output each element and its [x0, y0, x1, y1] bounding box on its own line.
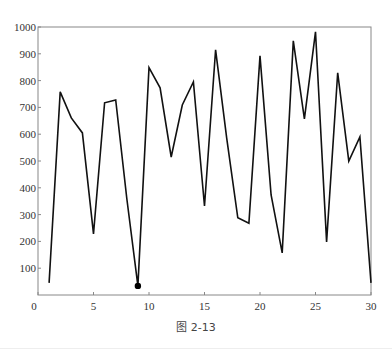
figure-caption: 图 2-13: [0, 318, 392, 334]
y-tick-label: 400: [20, 182, 37, 194]
line-chart: 1002003004005006007008009001000 05101520…: [0, 0, 392, 354]
plot-frame: [38, 27, 371, 295]
plot-border: [38, 27, 371, 295]
y-tick-label: 100: [20, 262, 37, 274]
x-tick-label: 20: [255, 300, 267, 312]
x-tick-label: 5: [91, 300, 97, 312]
x-tick-label: 25: [310, 300, 322, 312]
x-tick-label: 15: [199, 300, 211, 312]
divider: [0, 348, 392, 349]
x-tick-label: 0: [31, 300, 37, 312]
y-tick-label: 300: [20, 209, 37, 221]
y-tick-label: 500: [20, 155, 37, 167]
y-tick-label: 200: [20, 235, 37, 247]
x-tick-label: 10: [144, 300, 156, 312]
y-axis-ticks: 1002003004005006007008009001000: [14, 21, 41, 274]
data-line: [49, 32, 371, 286]
x-tick-label: 30: [366, 300, 378, 312]
y-tick-label: 1000: [14, 21, 37, 33]
y-tick-label: 700: [20, 101, 37, 113]
y-tick-label: 900: [20, 48, 37, 60]
y-tick-label: 800: [20, 75, 37, 87]
highlight-point-marker: [135, 283, 141, 289]
y-tick-label: 600: [20, 128, 37, 140]
